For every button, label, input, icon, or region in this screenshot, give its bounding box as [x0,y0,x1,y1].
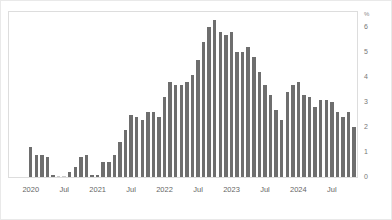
bar [224,35,227,178]
bar [157,117,160,177]
bar [101,162,104,177]
x-axis-tick-label: 2024 [290,185,307,195]
bar [269,95,272,178]
x-axis-tick-label: Jul [327,185,337,195]
bar [213,20,216,178]
bar [202,42,205,177]
bar [258,72,261,177]
bar [57,176,60,178]
x-axis-tick-label: 2022 [156,185,173,195]
x-axis: 2020Jul2021Jul2022Jul2023Jul2024Jul [1,185,392,201]
bar [79,157,82,177]
bar [302,95,305,178]
bar [180,85,183,178]
bar [152,112,155,177]
bar [141,120,144,178]
bar [330,102,333,177]
bar [46,157,49,177]
bar [96,175,99,178]
x-axis-tick-label: Jul [59,185,69,195]
x-axis-tick-label: Jul [260,185,270,195]
bar [191,75,194,178]
y-axis-tick-label: 0 [364,173,368,181]
bar [313,107,316,177]
bar [118,142,121,177]
y-axis-tick-label: 3 [364,98,368,106]
bar [29,147,32,177]
bar [325,100,328,178]
bar [352,127,355,177]
x-axis-tick-label: 2023 [223,185,240,195]
bar [219,32,222,177]
bar [308,97,311,177]
y-axis-tick-label: 5 [364,48,368,56]
x-axis-tick-label: 2020 [22,185,39,195]
bar [129,115,132,178]
bar [51,175,54,178]
y-axis-unit-label: % [364,11,369,18]
plot-area [9,12,357,177]
bar-series [9,12,357,177]
bar [347,112,350,177]
bar [113,155,116,178]
bar [185,82,188,177]
bar [174,85,177,178]
bar [107,162,110,177]
bar [319,100,322,178]
bar [68,172,71,177]
bar [196,60,199,178]
bar [40,155,43,178]
y-axis-tick-label: 2 [364,123,368,131]
bar [135,117,138,177]
x-axis-tick-label: 2021 [89,185,106,195]
bar [235,52,238,177]
chart-card: % 0123456 2020Jul2021Jul2022Jul2023Jul20… [0,0,392,220]
bar [74,167,77,177]
y-axis-tick-label: 1 [364,148,368,156]
bar [124,130,127,178]
bar [62,176,65,178]
bar [280,120,283,178]
bar [274,110,277,178]
bar [207,27,210,177]
x-axis-tick-label: Jul [126,185,136,195]
y-axis-tick-label: 4 [364,73,368,81]
y-axis-tick-label: 6 [364,23,368,31]
bar [90,175,93,178]
bar [168,82,171,177]
bar [230,32,233,177]
bar [252,57,255,177]
bar [35,155,38,178]
bar [297,82,300,177]
bar [85,155,88,178]
bar [163,97,166,177]
bar [146,112,149,177]
bar [246,47,249,177]
bar [241,52,244,177]
bar [286,92,289,177]
bar [336,112,339,177]
x-axis-tick-label: Jul [193,185,203,195]
bar [341,117,344,177]
bar [263,85,266,178]
bar [291,85,294,178]
